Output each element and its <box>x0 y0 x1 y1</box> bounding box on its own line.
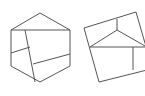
dissection-diagram <box>0 0 145 96</box>
hexagon-outline <box>11 13 70 82</box>
hexagon-cut-line <box>11 47 30 53</box>
hexagon-cut-line <box>33 54 70 64</box>
dissected-rotated-square <box>84 12 145 82</box>
square-cut-line <box>90 30 145 47</box>
dissected-hexagon <box>11 13 70 82</box>
